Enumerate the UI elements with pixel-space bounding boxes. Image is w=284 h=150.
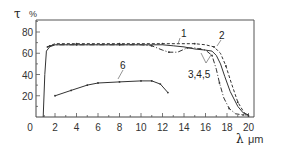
data-point-marker	[49, 45, 51, 47]
data-point-marker	[242, 114, 244, 116]
data-point-marker	[219, 82, 221, 84]
x-tick-label: 20	[243, 122, 255, 133]
data-point-marker	[151, 45, 153, 47]
series-6	[55, 81, 168, 96]
data-point-marker	[140, 80, 142, 82]
data-point-marker	[237, 101, 239, 103]
curve-label-1: 1	[181, 28, 187, 39]
data-point-marker	[70, 90, 72, 92]
y-tick-label: 80	[22, 27, 34, 38]
y-tick-label: 60	[22, 48, 34, 59]
curve-label-3-4-5: 3,4,5	[188, 69, 211, 80]
transmission-chart: 0246810121416182020406080 τ % λ μm 1 2 3…	[0, 0, 284, 150]
data-point-marker	[119, 44, 121, 46]
x-tick-label: 16	[200, 122, 212, 133]
data-point-marker	[167, 92, 169, 94]
x-tick-label: 12	[157, 122, 169, 133]
y-tick-label: 40	[22, 70, 34, 81]
data-point-marker	[86, 84, 88, 86]
data-point-marker	[211, 54, 213, 56]
data-point-marker	[228, 108, 230, 110]
x-tick-label: 2	[52, 122, 58, 133]
data-point-marker	[159, 83, 161, 85]
data-point-marker	[194, 43, 196, 45]
data-point-marker	[162, 43, 164, 45]
data-point-marker	[76, 44, 78, 46]
x-tick-label: 14	[178, 122, 190, 133]
x-tick-label: 0	[27, 122, 33, 133]
data-point-marker	[199, 48, 201, 50]
y-tick-label: 20	[22, 91, 34, 102]
data-point-marker	[47, 46, 49, 48]
x-tick-label: 4	[74, 122, 80, 133]
data-point-marker	[213, 46, 215, 48]
data-series	[43, 43, 249, 117]
x-axis-title: λ	[236, 132, 244, 146]
data-point-marker	[151, 80, 153, 82]
x-tick-label: 10	[135, 122, 147, 133]
curve-label-2: 2	[219, 30, 225, 41]
curve-label-6: 6	[120, 60, 126, 71]
data-point-marker	[54, 95, 56, 97]
x-tick-label: 18	[221, 122, 233, 133]
x-tick-label: 8	[117, 122, 123, 133]
y-axis-title: τ	[14, 7, 21, 21]
data-point-marker	[186, 47, 188, 49]
data-point-marker	[225, 65, 227, 67]
series-3-4-5	[50, 45, 249, 115]
data-point-marker	[119, 81, 121, 83]
x-tick-label: 6	[95, 122, 101, 133]
x-axis-unit: μm	[248, 133, 264, 145]
data-point-marker	[97, 82, 99, 84]
y-axis-unit: %	[29, 9, 37, 19]
data-point-marker	[168, 51, 170, 53]
